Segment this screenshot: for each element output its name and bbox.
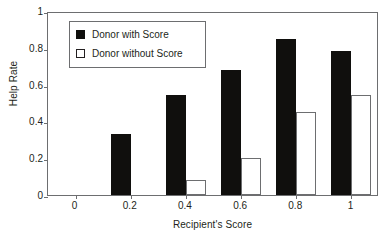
y-axis-tick-mark bbox=[44, 13, 48, 14]
x-axis-tick-label: 0 bbox=[55, 200, 95, 212]
bar bbox=[166, 95, 186, 195]
x-axis-tick-mark bbox=[241, 195, 242, 199]
bar bbox=[351, 95, 371, 195]
y-axis-tick-label: 1 bbox=[3, 7, 43, 17]
y-axis-tick-label: 0 bbox=[3, 191, 43, 201]
y-axis-tick-mark bbox=[44, 50, 48, 51]
legend-label-donor-without-score: Donor without Score bbox=[92, 48, 183, 59]
x-axis-tick-label: 0.8 bbox=[275, 200, 315, 212]
y-axis-tick-mark bbox=[44, 123, 48, 124]
y-axis-tick-mark bbox=[44, 197, 48, 198]
x-axis-tick-mark bbox=[296, 195, 297, 199]
bar bbox=[296, 112, 316, 195]
y-axis-tick-label: 0.4 bbox=[3, 117, 43, 127]
y-axis-tick-label: 0.2 bbox=[3, 154, 43, 164]
y-axis-tick-mark bbox=[44, 87, 48, 88]
bar bbox=[186, 180, 206, 195]
legend-item-donor-without-score: Donor without Score bbox=[76, 44, 199, 63]
x-axis-tick-mark bbox=[76, 195, 77, 199]
y-axis-tick-label: 0.8 bbox=[3, 44, 43, 54]
filled-square-icon bbox=[76, 30, 85, 39]
bar bbox=[331, 51, 351, 195]
x-axis-tick-labels: 00.20.40.60.81 bbox=[47, 200, 378, 216]
x-axis-tick-label: 0.6 bbox=[220, 200, 260, 212]
x-axis-tick-mark bbox=[351, 195, 352, 199]
bar bbox=[276, 39, 296, 195]
x-axis-tick-label: 0.4 bbox=[165, 200, 205, 212]
bar bbox=[111, 134, 131, 195]
y-axis-tick-mark bbox=[44, 160, 48, 161]
y-axis-tick-labels: 00.20.40.60.81 bbox=[0, 0, 43, 242]
bar-chart-figure: Help Rate 00.20.40.60.81 Donor with Scor… bbox=[0, 0, 386, 242]
chart-legend: Donor with Score Donor without Score bbox=[69, 21, 206, 68]
x-axis-tick-label: 1 bbox=[330, 200, 370, 212]
hollow-square-icon bbox=[76, 49, 85, 58]
legend-label-donor-with-score: Donor with Score bbox=[92, 29, 169, 40]
bar bbox=[221, 70, 241, 195]
bar bbox=[241, 158, 261, 195]
x-axis-tick-mark bbox=[131, 195, 132, 199]
x-axis-title: Recipient's Score bbox=[47, 219, 378, 230]
plot-area: Donor with Score Donor without Score bbox=[47, 12, 378, 196]
x-axis-tick-label: 0.2 bbox=[110, 200, 150, 212]
y-axis-tick-label: 0.6 bbox=[3, 81, 43, 91]
legend-item-donor-with-score: Donor with Score bbox=[76, 25, 199, 44]
x-axis-tick-mark bbox=[186, 195, 187, 199]
